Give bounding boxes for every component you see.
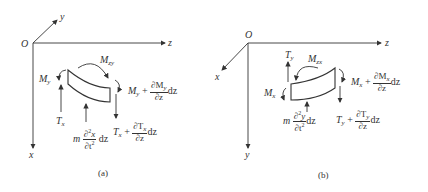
caption-b: (b)	[318, 170, 329, 180]
moment-arrow-left-a	[59, 70, 66, 80]
inertia-label-a: m ∂2x∂t2 dz	[73, 128, 108, 152]
caption-a: (a)	[98, 168, 108, 178]
axis-label-y-a: y	[60, 12, 64, 22]
origin-label-a: O	[21, 39, 28, 49]
moment-top-label-b: Mzx	[308, 54, 322, 66]
axis-x-b	[222, 43, 248, 70]
moment-arrow-right-a	[115, 80, 119, 92]
axis-label-z-b: z	[385, 38, 389, 48]
axis-y-a	[33, 20, 57, 43]
moment-arrow-right-b	[339, 69, 343, 82]
diagram-canvas	[0, 0, 428, 192]
shear-left-label-b: Ty	[285, 50, 294, 62]
moment-left-label-a: My	[39, 74, 50, 86]
axis-label-x-b: x	[215, 72, 219, 82]
moment-left-label-b: Mx	[264, 88, 275, 100]
axis-label-x-a: x	[29, 150, 33, 160]
shear-left-label-a: Tx	[56, 116, 65, 128]
moment-right-label-a: My + ∂My∂zdz	[128, 81, 177, 103]
axis-label-y-b: y	[245, 150, 249, 160]
shear-right-label-b: Ty + ∂Ty∂zdz	[336, 110, 380, 132]
shear-right-label-a: Tx + ∂Tx∂zdz	[113, 122, 157, 144]
moment-top-label-a: Mzy	[100, 55, 114, 67]
origin-label-b: O	[245, 30, 252, 40]
axis-label-z-a: z	[168, 38, 172, 48]
moment-arrow-top-b	[296, 67, 318, 81]
beam-element-a	[68, 70, 110, 102]
moment-right-label-b: Mx + ∂Mx∂zdz	[351, 72, 400, 94]
moment-arrow-left-b	[283, 88, 286, 100]
inertia-label-b: m ∂2y∂t2dz	[283, 110, 316, 134]
